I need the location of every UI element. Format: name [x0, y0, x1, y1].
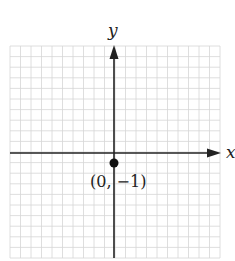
data-point	[110, 159, 119, 168]
coordinate-plane: x y (0, −1)	[0, 0, 235, 261]
grid	[10, 46, 220, 258]
y-axis-label: y	[107, 20, 118, 40]
point-label: (0, −1)	[90, 172, 146, 191]
x-axis-label: x	[226, 142, 235, 162]
y-axis-arrow-icon	[110, 45, 119, 59]
x-axis-arrow-icon	[207, 149, 221, 158]
